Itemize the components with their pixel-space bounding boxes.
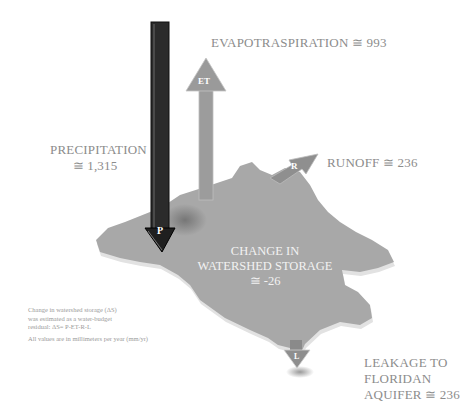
storage-label-line3: ≅ -26 [195, 274, 335, 289]
note-line3: residual: ΔS= P-ET-R-L [28, 323, 198, 332]
note-line4: All values are in millimeters per year (… [28, 335, 198, 344]
storage-label-line2: WATERSHED STORAGE [195, 259, 335, 274]
precipitation-label-line1: PRECIPITATION [50, 142, 140, 158]
note-line2: was estimated as a water-budget [28, 315, 198, 324]
leakage-label: LEAKAGE TO FLORIDAN AQUIFER ≅ 236 [364, 355, 460, 403]
precipitation-label-line2: ≅ 1,315 [50, 158, 140, 174]
leakage-label-line1: LEAKAGE TO [364, 355, 460, 371]
arrow-letter-r: R [291, 161, 298, 171]
precipitation-label: PRECIPITATION ≅ 1,315 [50, 142, 140, 174]
evapotranspiration-label: EVAPOTRASPIRATION ≅ 993 [211, 35, 387, 51]
storage-label-line1: CHANGE IN [195, 244, 335, 259]
arrow-letter-l: L [294, 352, 299, 361]
leakage-label-line3: AQUIFER ≅ 236 [364, 387, 460, 403]
method-note: Change in watershed storage (ΔS) was est… [28, 306, 198, 343]
arrow-letter-p: P [157, 225, 163, 236]
runoff-label: RUNOFF ≅ 236 [327, 155, 418, 171]
storage-change-label: CHANGE IN WATERSHED STORAGE ≅ -26 [195, 244, 335, 289]
note-line1: Change in watershed storage (ΔS) [28, 306, 198, 315]
leakage-label-line2: FLORIDAN [364, 371, 460, 387]
arrow-letter-et: ET [198, 76, 210, 86]
